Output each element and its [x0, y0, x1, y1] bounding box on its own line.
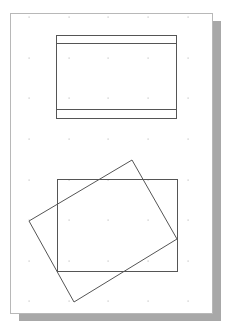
- grid-dot: [108, 98, 109, 99]
- grid-dot: [69, 58, 70, 59]
- grid-dot: [69, 301, 70, 302]
- grid-dot: [108, 301, 109, 302]
- grid-dot: [29, 261, 30, 262]
- grid-dot: [148, 261, 149, 262]
- drawing-sheet: [11, 14, 213, 314]
- grid-dot: [148, 58, 149, 59]
- grid-dot: [108, 220, 109, 221]
- grid-dot: [188, 261, 189, 262]
- grid-dot: [148, 17, 149, 18]
- grid-dot: [69, 220, 70, 221]
- grid-dot: [108, 58, 109, 59]
- sheet-shadow-bottom: [19, 313, 221, 321]
- grid-dot: [108, 139, 109, 140]
- grid-dot: [108, 261, 109, 262]
- grid-dot: [188, 139, 189, 140]
- grid-dot: [29, 301, 30, 302]
- sheet-shadow-right: [212, 21, 221, 321]
- grid-dot: [188, 220, 189, 221]
- grid-dot: [29, 180, 30, 181]
- grid-dot: [188, 301, 189, 302]
- grid-dot: [188, 98, 189, 99]
- grid-dot: [29, 139, 30, 140]
- grid-dot: [188, 17, 189, 18]
- grid-dot: [69, 261, 70, 262]
- grid-dot: [69, 139, 70, 140]
- grid-dot: [29, 17, 30, 18]
- grid-dot: [69, 98, 70, 99]
- grid-dot: [29, 58, 30, 59]
- grid-dot: [148, 301, 149, 302]
- grid-dot: [148, 98, 149, 99]
- grid-dot: [148, 139, 149, 140]
- grid-dot: [188, 180, 189, 181]
- grid-dot: [69, 17, 70, 18]
- grid-dot: [148, 220, 149, 221]
- grid-dot: [188, 58, 189, 59]
- grid-dot: [29, 98, 30, 99]
- grid-dot: [108, 17, 109, 18]
- drawing-canvas[interactable]: [0, 0, 228, 323]
